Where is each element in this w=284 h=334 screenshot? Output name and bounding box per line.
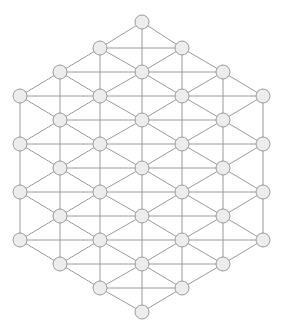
lattice-node <box>216 257 230 271</box>
lattice-node <box>175 41 189 55</box>
lattice-node <box>93 89 107 103</box>
lattice-node <box>93 281 107 295</box>
lattice-canvas <box>0 0 284 334</box>
lattice-node <box>93 41 107 55</box>
lattice-node <box>175 89 189 103</box>
lattice-node <box>53 161 67 175</box>
lattice-node <box>135 305 149 319</box>
lattice-node <box>135 65 149 79</box>
lattice-node <box>175 185 189 199</box>
lattice-node <box>13 137 27 151</box>
lattice-node <box>256 185 270 199</box>
lattice-node <box>13 89 27 103</box>
lattice-node <box>53 257 67 271</box>
lattice-node <box>53 65 67 79</box>
lattice-node <box>135 161 149 175</box>
lattice-node <box>135 209 149 223</box>
lattice-node <box>216 161 230 175</box>
lattice-node <box>175 137 189 151</box>
lattice-node <box>216 209 230 223</box>
lattice-node <box>13 185 27 199</box>
lattice-node <box>135 113 149 127</box>
lattice-node <box>53 209 67 223</box>
lattice-node <box>93 185 107 199</box>
lattice-node <box>256 89 270 103</box>
lattice-node <box>13 233 27 247</box>
lattice-node <box>135 15 149 29</box>
lattice-node <box>216 65 230 79</box>
lattice-node <box>256 233 270 247</box>
lattice-node <box>93 137 107 151</box>
lattice-node <box>175 281 189 295</box>
lattice-diagram <box>0 0 284 334</box>
lattice-node <box>175 233 189 247</box>
lattice-node <box>216 113 230 127</box>
lattice-node <box>256 137 270 151</box>
lattice-node <box>53 113 67 127</box>
lattice-node <box>135 257 149 271</box>
lattice-node <box>93 233 107 247</box>
